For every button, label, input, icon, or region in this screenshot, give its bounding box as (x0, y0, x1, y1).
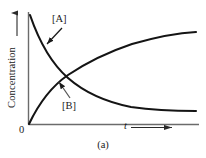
origin-tick-label: 0 (19, 125, 24, 136)
y-axis-label-text: Concentration (6, 35, 17, 121)
y-axis-label: Concentration (2, 36, 18, 122)
plot-canvas (0, 0, 206, 158)
label-a-leader-arrow-icon (47, 28, 62, 44)
curve-label-b: [B] (62, 101, 76, 112)
figure-caption: (a) (0, 140, 206, 151)
x-axis-label: t (124, 121, 127, 132)
curve-concentration-a (30, 15, 196, 111)
label-b-leader-arrow-icon (59, 82, 70, 98)
curve-label-a: [A] (52, 14, 67, 25)
kinetics-figure: Concentration [A] [B] 0 t (a) (0, 0, 206, 158)
